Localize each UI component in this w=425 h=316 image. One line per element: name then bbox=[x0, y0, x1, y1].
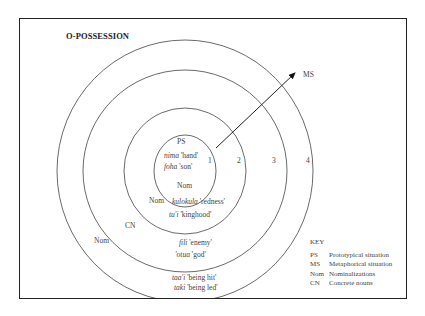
ms-arrow bbox=[216, 73, 295, 148]
key-item: Nom Nominalizations bbox=[310, 270, 392, 280]
zone2-example-1: kulokula 'redness' bbox=[172, 198, 225, 206]
example-gloss: 'redness' bbox=[200, 197, 225, 206]
key-meaning: Concrete nouns bbox=[329, 279, 373, 289]
example-word: 'otua bbox=[175, 250, 190, 259]
example-word: kulokula bbox=[172, 197, 198, 206]
ms-label: MS bbox=[303, 71, 314, 79]
example-gloss: 'god' bbox=[192, 250, 206, 259]
example-word: tu'i bbox=[169, 210, 179, 219]
zone-number-1: 1 bbox=[208, 157, 212, 165]
zone4-example-1: taa'i 'being hit' bbox=[172, 274, 216, 282]
key-item: PS Prototypical situation bbox=[310, 251, 392, 261]
example-gloss: 'son' bbox=[179, 162, 192, 171]
key-abbr: MS bbox=[310, 260, 329, 270]
zone3-cn-label: CN bbox=[125, 222, 135, 230]
diagram-title: O-POSSESSION bbox=[66, 31, 129, 41]
zone1-example-1: nima 'hand' bbox=[164, 152, 198, 160]
legend-key: KEY PS Prototypical situation MS Metapho… bbox=[310, 238, 392, 289]
example-word: taa'i bbox=[172, 273, 185, 282]
zone2-example-2: tu'i 'kinghood' bbox=[169, 211, 211, 219]
zone2-nom-label: Nom bbox=[149, 197, 164, 205]
key-heading: KEY bbox=[310, 238, 392, 248]
key-abbr: CN bbox=[310, 279, 329, 289]
example-gloss: 'being hit' bbox=[187, 273, 216, 282]
key-meaning: Prototypical situation bbox=[329, 251, 389, 261]
key-item: MS Metaphorical situation bbox=[310, 260, 392, 270]
example-word: taki bbox=[174, 283, 185, 292]
example-word: fili bbox=[179, 238, 187, 247]
zone4-nom-label: Nom bbox=[94, 237, 109, 245]
key-abbr: Nom bbox=[310, 270, 329, 280]
zone-number-2: 2 bbox=[237, 157, 241, 165]
example-gloss: 'kinghood' bbox=[180, 210, 211, 219]
zone4-example-2: taki 'being led' bbox=[174, 284, 218, 292]
zone-number-4: 4 bbox=[306, 157, 310, 165]
example-word: foha bbox=[164, 162, 177, 171]
example-gloss: 'hand' bbox=[181, 151, 198, 160]
zone-number-3: 3 bbox=[272, 157, 276, 165]
key-item: CN Concrete nouns bbox=[310, 279, 392, 289]
zone3-example-1: fili 'enemy' bbox=[179, 239, 212, 247]
circle-zone-4 bbox=[57, 40, 313, 302]
ps-label: PS bbox=[177, 138, 185, 146]
key-meaning: Nominalizations bbox=[329, 270, 375, 280]
key-meaning: Metaphorical situation bbox=[329, 260, 392, 270]
example-gloss: 'being led' bbox=[187, 283, 217, 292]
zone1-nom-label: Nom bbox=[177, 182, 192, 190]
zone1-example-2: foha 'son' bbox=[164, 163, 192, 171]
zone3-example-2: 'otua 'god' bbox=[175, 251, 206, 259]
example-word: nima bbox=[164, 151, 179, 160]
key-abbr: PS bbox=[310, 251, 329, 261]
example-gloss: 'enemy' bbox=[189, 238, 212, 247]
